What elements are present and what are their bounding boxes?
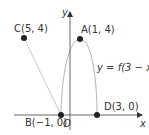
y-axis-label: y [62, 8, 68, 18]
x-axis-label: x [140, 119, 146, 129]
curve-y-equals-f-3-minus-x [61, 39, 97, 115]
point-c [21, 35, 27, 41]
curve-label: y = f(3 − x) [97, 63, 149, 73]
function-graph-diagram: y x O A(1, 4) B(−1, 0) C(5, 4) D(3, 0) y… [0, 0, 149, 135]
segment-c-to-b [24, 38, 61, 115]
point-a [77, 36, 83, 42]
point-a-label: A(1, 4) [81, 25, 115, 35]
point-b-label: B(−1, 0) [25, 118, 67, 128]
point-c-label: C(5, 4) [14, 24, 48, 34]
point-d [94, 112, 100, 118]
point-d-label: D(3, 0) [104, 102, 139, 112]
